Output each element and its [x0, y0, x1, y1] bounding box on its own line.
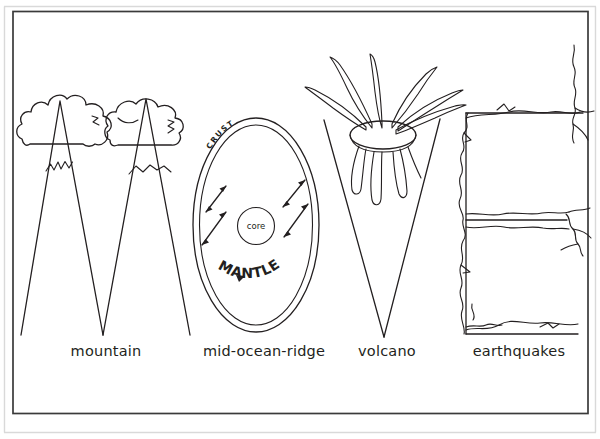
artboard: CRUST core MANTLE — [0, 0, 600, 439]
core-label: core — [247, 221, 265, 231]
caption-mountain: mountain — [71, 343, 142, 359]
caption-volcano: volcano — [358, 343, 416, 359]
line-art-canvas: CRUST core MANTLE — [0, 0, 600, 439]
caption-mid-ocean-ridge: mid-ocean-ridge — [203, 343, 325, 359]
caption-earthquakes: earthquakes — [473, 343, 565, 359]
coloring-page: CRUST core MANTLE — [0, 0, 600, 439]
